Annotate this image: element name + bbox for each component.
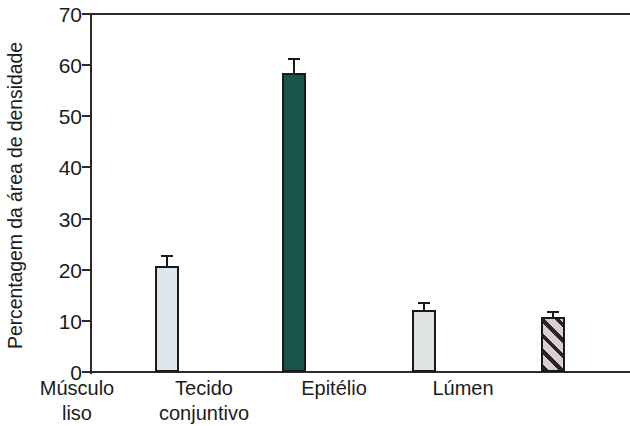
x-axis-tick-label-line2: conjuntivo xyxy=(114,401,294,426)
y-axis-tick-labels: 706050403020100 xyxy=(30,0,82,423)
y-axis-tick-mark xyxy=(82,269,90,271)
y-axis-tick-mark xyxy=(82,64,90,66)
bar-group xyxy=(282,14,306,372)
y-axis-tick-label: 20 xyxy=(36,259,82,280)
y-axis-tick-label: 60 xyxy=(36,55,82,76)
y-axis-tick-label: 40 xyxy=(36,157,82,178)
error-bar-cap xyxy=(161,255,173,257)
y-axis-tick-label: 10 xyxy=(36,310,82,331)
error-bar-stem xyxy=(423,304,425,310)
x-axis-tick-label-line1: Lúmen xyxy=(373,376,553,401)
bar-group xyxy=(412,14,436,372)
y-axis-title: Percentagem da área de densidade xyxy=(0,0,30,390)
error-bar-cap xyxy=(418,302,430,304)
bar[interactable] xyxy=(541,317,565,372)
bar-group xyxy=(155,14,179,372)
bar[interactable] xyxy=(282,73,306,372)
y-axis-tick-mark xyxy=(82,166,90,168)
y-axis-tick-mark xyxy=(82,371,90,373)
y-axis-title-text: Percentagem da área de densidade xyxy=(4,42,27,349)
bar[interactable] xyxy=(155,266,179,372)
x-axis-tick-label: Lúmen xyxy=(373,376,553,401)
error-bar-cap xyxy=(288,58,300,60)
y-axis-tick-mark xyxy=(82,218,90,220)
bar-group xyxy=(541,14,565,372)
bar[interactable] xyxy=(412,310,436,372)
x-axis-tick-labels: MúsculolisoTecidoconjuntivoEpitélioLúmen xyxy=(0,374,630,423)
y-axis-tick-mark xyxy=(82,115,90,117)
plot-area xyxy=(90,14,630,372)
y-axis-tick-label: 50 xyxy=(36,106,82,127)
y-axis-tick-mark xyxy=(82,13,90,15)
y-axis-tick-mark xyxy=(82,320,90,322)
error-bar-stem xyxy=(293,60,295,73)
error-bar-stem xyxy=(552,313,554,317)
error-bar-cap xyxy=(547,311,559,313)
bar-hatch-pattern xyxy=(543,319,563,370)
y-axis-tick-label: 70 xyxy=(36,4,82,25)
error-bar-stem xyxy=(166,257,168,266)
y-axis-tick-label: 30 xyxy=(36,208,82,229)
